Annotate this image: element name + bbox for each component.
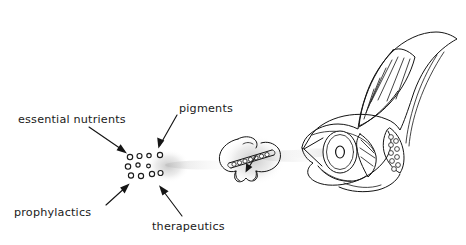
label-prophylactics: prophylactics <box>14 206 91 219</box>
particle <box>127 154 132 159</box>
label-essential-nutrients: essential nutrients <box>18 113 126 126</box>
particle <box>125 164 130 169</box>
larva-eye <box>323 131 357 173</box>
particle <box>138 173 143 178</box>
particle <box>137 154 142 159</box>
larva-gut-contents <box>389 135 401 172</box>
label-pigments: pigments <box>179 102 233 115</box>
particle <box>147 164 151 168</box>
particle <box>136 163 140 167</box>
particle <box>149 171 154 176</box>
diagram-canvas: essential nutrients pigments prophylacti… <box>0 0 466 245</box>
label-therapeutics: therapeutics <box>152 220 225 233</box>
arrow-pigments <box>157 115 177 148</box>
diagram-svg: essential nutrients pigments prophylacti… <box>0 0 466 245</box>
particle <box>157 152 162 157</box>
larva-belly-outline <box>339 174 400 192</box>
fish-larva <box>302 32 457 192</box>
larva-notochord-edge <box>406 55 437 143</box>
larva-fin-rays <box>364 57 410 119</box>
particle <box>158 171 163 176</box>
arrow-essential-nutrients <box>89 127 127 154</box>
larva-operculum-ray-3 <box>361 157 373 166</box>
larva-operculum <box>357 134 377 177</box>
arrow-prophylactics <box>106 184 130 205</box>
particle <box>147 153 151 157</box>
arrow-therapeutics <box>159 185 182 216</box>
particle <box>128 173 133 178</box>
